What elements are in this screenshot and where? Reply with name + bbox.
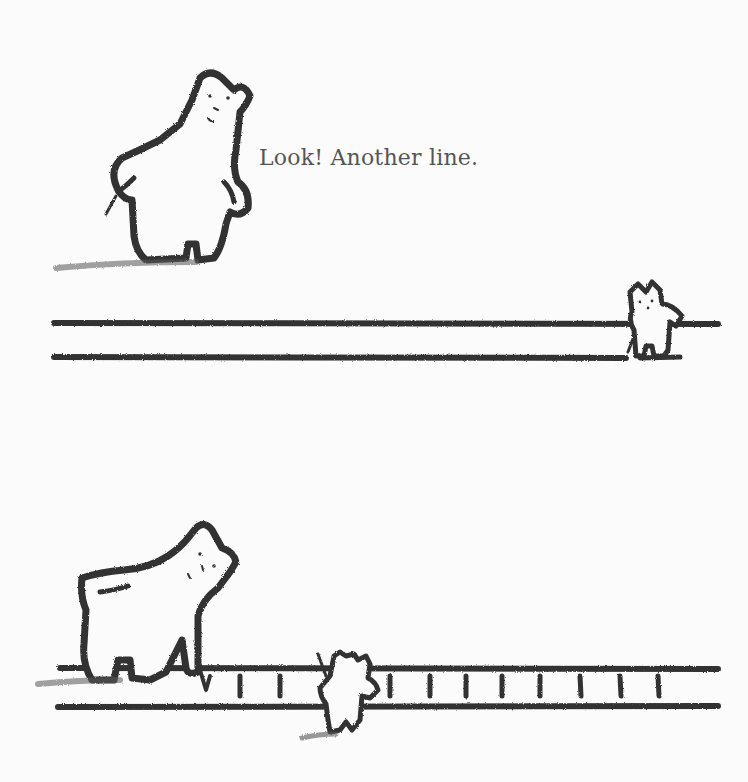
line-upper xyxy=(54,323,718,324)
ladder-rail-lower xyxy=(58,706,718,707)
small-bear-top-icon xyxy=(628,282,682,356)
small-bear-bottom-icon xyxy=(318,652,378,732)
illustration xyxy=(0,0,748,782)
big-bear-bottom-icon xyxy=(82,524,237,690)
line-lower xyxy=(54,357,626,358)
storybook-page: Look! Another line. xyxy=(0,0,748,782)
ground-shadow xyxy=(56,262,196,268)
big-bear-top-icon xyxy=(106,73,250,260)
ladder-rungs xyxy=(240,676,659,696)
